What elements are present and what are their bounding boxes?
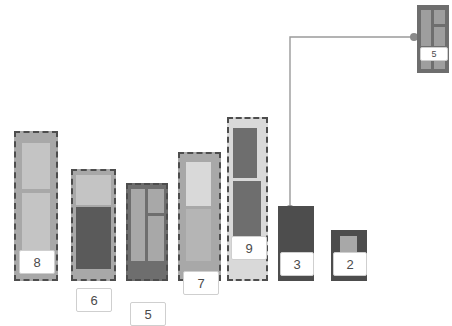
node-5-cell-2[interactable]	[148, 189, 164, 213]
detached-node-5-cell-5[interactable]	[434, 60, 445, 69]
node-8[interactable]: 8	[14, 131, 58, 281]
node-5-label-chip: 5	[130, 302, 166, 326]
node-7-cell-1[interactable]	[186, 162, 211, 206]
detached-node-5[interactable]: 5	[417, 5, 449, 73]
node-2-label-chip: 2	[333, 252, 367, 276]
node-9-cell-1[interactable]	[233, 128, 257, 178]
node-3[interactable]: 3	[278, 206, 314, 281]
node-7-cell-2[interactable]	[186, 209, 211, 261]
detached-node-5-label-chip: 5	[420, 47, 448, 61]
detached-node-5-cell-2[interactable]	[434, 10, 445, 24]
node-7-label-chip: 7	[183, 271, 219, 295]
detached-node-5-cell-4[interactable]	[421, 60, 431, 69]
node-6[interactable]: 6	[71, 169, 116, 281]
node-9[interactable]: 9	[227, 117, 268, 281]
node-9-label-chip: 9	[231, 236, 267, 260]
node-6-cell-1[interactable]	[76, 175, 111, 205]
node-5[interactable]: 5	[126, 183, 168, 281]
node-7[interactable]: 7	[178, 152, 221, 281]
node-8-label-chip: 8	[19, 250, 55, 274]
node-8-cell-1[interactable]	[22, 143, 50, 189]
node-3-label-chip: 3	[280, 252, 314, 276]
node-5-cell-3[interactable]	[148, 216, 164, 261]
node-6-cell-2[interactable]	[76, 207, 111, 269]
node-6-label-chip: 6	[76, 288, 112, 312]
connector-elbow-line	[290, 37, 414, 212]
detached-node-5-cell-3[interactable]	[434, 27, 445, 46]
node-2[interactable]: 2	[331, 230, 367, 281]
detached-node-5-cell-1[interactable]	[421, 10, 431, 46]
node-5-cell-1[interactable]	[131, 189, 145, 261]
